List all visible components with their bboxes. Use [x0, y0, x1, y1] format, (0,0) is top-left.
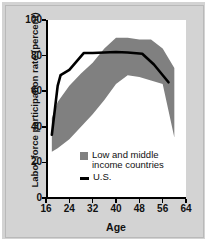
- x-tick-label: 48: [127, 203, 151, 214]
- x-tick-label: 56: [151, 203, 175, 214]
- legend-item-low-middle-income: Low and middle income countries: [80, 150, 184, 170]
- y-tick: [42, 162, 46, 164]
- legend-label-us: U.S.: [93, 172, 111, 182]
- y-tick-label: 60: [16, 86, 42, 96]
- legend-label-line2: income countries: [92, 159, 164, 170]
- chart-legend: Low and middle income countries U.S.: [80, 150, 184, 184]
- x-tick-label: 40: [104, 203, 128, 214]
- y-axis-line: [46, 20, 48, 198]
- y-tick: [42, 90, 46, 92]
- x-tick-label: 16: [34, 203, 58, 214]
- x-tick-label: 32: [81, 203, 105, 214]
- legend-line-icon: [80, 177, 89, 180]
- chart-figure: Labor force participation rate (percent)…: [0, 0, 207, 241]
- legend-item-us: U.S.: [80, 172, 184, 182]
- x-axis-title: Age: [46, 221, 186, 233]
- x-tick-label: 64: [174, 203, 198, 214]
- legend-label-low-middle-income: Low and middle income countries: [92, 150, 164, 170]
- band-low-middle-income: [52, 38, 175, 152]
- y-tick: [42, 126, 46, 128]
- y-tick-label: 20: [16, 157, 42, 167]
- x-tick-label: 24: [57, 203, 81, 214]
- y-tick: [42, 55, 46, 57]
- y-tick-label: 80: [16, 51, 42, 61]
- y-tick-label: 100: [16, 15, 42, 25]
- y-tick-label: 40: [16, 122, 42, 132]
- y-tick-label: 0: [16, 193, 42, 203]
- y-tick: [42, 19, 46, 21]
- legend-swatch-icon: [80, 152, 88, 160]
